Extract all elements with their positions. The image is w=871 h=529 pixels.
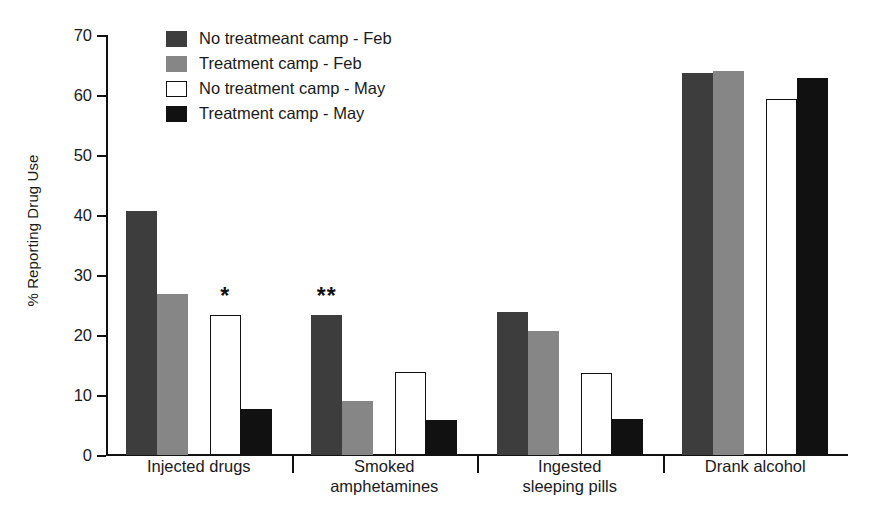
legend-swatch-icon bbox=[166, 81, 187, 97]
bar bbox=[713, 71, 744, 455]
legend-item[interactable]: Treatment camp - May bbox=[166, 102, 392, 125]
significance-marker: * bbox=[220, 285, 230, 308]
x-axis-category-label: Drank alcohol bbox=[705, 456, 806, 476]
legend-label: No treatment camp - May bbox=[199, 79, 385, 98]
y-tick-label: 10 bbox=[74, 386, 92, 405]
y-tick-label: 20 bbox=[74, 326, 92, 345]
bar bbox=[311, 315, 342, 455]
bar bbox=[157, 294, 188, 455]
chart-legend: No treatmeant camp - FebTreatment camp -… bbox=[166, 27, 392, 125]
y-tick-mark bbox=[97, 335, 106, 337]
y-tick-label: 30 bbox=[74, 266, 92, 285]
y-axis-line bbox=[106, 35, 108, 455]
bar bbox=[766, 99, 797, 455]
y-tick-mark bbox=[97, 455, 106, 457]
bar bbox=[210, 315, 241, 455]
y-axis-label: % Reporting Drug Use bbox=[24, 131, 41, 331]
group-separator-tick bbox=[663, 456, 665, 473]
bar bbox=[612, 419, 643, 455]
bar bbox=[342, 401, 373, 455]
bar bbox=[682, 73, 713, 455]
legend-item[interactable]: No treatmeant camp - Feb bbox=[166, 27, 392, 50]
bar bbox=[581, 373, 612, 455]
x-axis-category-label: Ingested sleeping pills bbox=[523, 456, 617, 496]
group-separator-tick bbox=[292, 456, 294, 473]
y-tick-mark bbox=[97, 215, 106, 217]
bar bbox=[241, 409, 272, 455]
x-axis-category-label: Smoked amphetamines bbox=[330, 456, 438, 496]
y-tick-mark bbox=[97, 95, 106, 97]
bar bbox=[126, 211, 157, 455]
bar-chart: % Reporting Drug Use 010203040506070 ***… bbox=[0, 0, 871, 529]
legend-label: No treatmeant camp - Feb bbox=[199, 29, 392, 48]
y-tick-mark bbox=[97, 395, 106, 397]
y-tick-label: 60 bbox=[74, 86, 92, 105]
bar bbox=[528, 331, 559, 455]
legend-item[interactable]: Treatment camp - Feb bbox=[166, 52, 392, 75]
legend-swatch-icon bbox=[166, 56, 187, 72]
group-separator-tick bbox=[477, 456, 479, 473]
legend-item[interactable]: No treatment camp - May bbox=[166, 77, 392, 100]
legend-label: Treatment camp - May bbox=[199, 104, 364, 123]
x-axis-category-label: Injected drugs bbox=[147, 456, 251, 476]
bar bbox=[797, 78, 828, 455]
legend-label: Treatment camp - Feb bbox=[199, 54, 362, 73]
bar bbox=[426, 420, 457, 455]
y-tick-label: 50 bbox=[74, 146, 92, 165]
significance-marker: ** bbox=[317, 285, 337, 308]
y-tick-mark bbox=[97, 275, 106, 277]
legend-swatch-icon bbox=[166, 106, 187, 122]
y-tick-mark bbox=[97, 155, 106, 157]
bar bbox=[395, 372, 426, 455]
y-tick-label: 70 bbox=[74, 26, 92, 45]
bar bbox=[497, 312, 528, 455]
legend-swatch-icon bbox=[166, 31, 187, 47]
y-tick-label: 0 bbox=[83, 446, 92, 465]
y-tick-mark bbox=[97, 35, 106, 37]
y-tick-label: 40 bbox=[74, 206, 92, 225]
